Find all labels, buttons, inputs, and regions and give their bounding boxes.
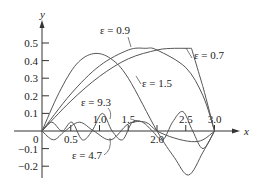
- y-tick-label: 0.4: [24, 55, 38, 67]
- annotation-eps-9-3: ε = 9.3: [81, 96, 112, 108]
- y-ticks: 0.50.40.30.20.1−0.1−0.2: [18, 37, 49, 172]
- axes: x y 0 0.51.01.52.02.53.0 0.50.40.30.20.1…: [14, 8, 249, 178]
- leader-eps-0-9: [128, 37, 131, 47]
- leader-eps-0-7: [186, 48, 192, 58]
- x-axis-label: x: [243, 125, 249, 137]
- annotation-eps-0-9: ε = 0.9: [100, 24, 131, 36]
- chart-plot: x y 0 0.51.01.52.02.53.0 0.50.40.30.20.1…: [0, 0, 263, 188]
- annotation-eps-4-7: ε = 4.7: [72, 149, 103, 161]
- leader-eps-4-7: [104, 138, 110, 155]
- x-axis-arrow-icon: [232, 129, 240, 134]
- annotation-eps-1-5: ε = 1.5: [142, 77, 173, 89]
- y-axis-arrow-icon: [40, 20, 45, 28]
- y-tick-label: 0.5: [24, 37, 38, 49]
- leader-eps-9-3: [108, 108, 111, 119]
- annotation-eps-0-7: ε = 0.7: [194, 49, 225, 61]
- y-tick-label: −0.1: [18, 143, 38, 155]
- x-ticks: 0.51.01.52.02.53.0: [64, 113, 222, 145]
- x-tick-label: 1.5: [121, 113, 135, 125]
- y-tick-label: 0.3: [24, 72, 38, 84]
- y-tick-label: −0.2: [18, 160, 38, 172]
- y-axis-label: y: [39, 8, 45, 20]
- x-tick-label: 0.5: [64, 133, 78, 145]
- y-tick-label: 0.2: [24, 90, 38, 102]
- y-tick-label: 0.1: [24, 107, 38, 119]
- curves: [42, 48, 215, 175]
- leader-eps-1-5: [136, 76, 141, 84]
